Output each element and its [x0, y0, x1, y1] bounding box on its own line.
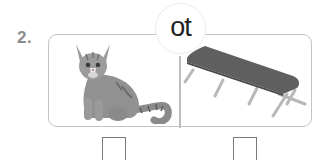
cat-picture[interactable]: [68, 38, 174, 124]
picture-divider: [179, 56, 181, 128]
answer-box-cat[interactable]: [102, 137, 126, 160]
cat-icon: [68, 38, 174, 124]
answer-box-cot[interactable]: [233, 137, 257, 160]
cot-picture[interactable]: [183, 42, 309, 120]
cot-icon: [183, 42, 309, 120]
word-ending-bubble: ot: [155, 3, 206, 54]
question-number: 2.: [17, 28, 32, 48]
word-ending-text: ot: [170, 12, 191, 43]
